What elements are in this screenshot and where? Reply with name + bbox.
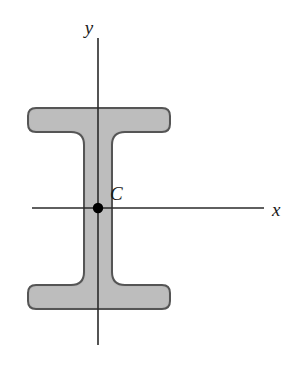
i-beam-centroid-diagram: y x C bbox=[0, 0, 305, 372]
centroid-label: C bbox=[110, 183, 123, 204]
y-axis-label: y bbox=[83, 17, 94, 38]
figure-container: y x C bbox=[0, 0, 305, 372]
figure-background bbox=[0, 0, 305, 372]
centroid-marker bbox=[93, 203, 103, 213]
x-axis-label: x bbox=[271, 199, 281, 220]
